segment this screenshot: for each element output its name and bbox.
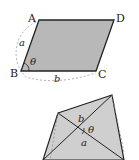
parallelogram-figure: A D B C a θ b: [10, 12, 125, 84]
quadrilateral-figure: b θ a: [43, 95, 124, 160]
diagonal-b-label: b: [78, 113, 84, 124]
angle-theta-label: θ: [30, 56, 36, 67]
side-a-label: a: [19, 37, 25, 48]
vertex-b-label: B: [10, 67, 18, 80]
vertex-c-label: C: [98, 68, 106, 81]
angle-theta-label-2: θ: [88, 124, 94, 135]
quadrilateral-shape: [43, 95, 124, 160]
vertex-d-label: D: [116, 12, 125, 25]
diagonal-a-label: a: [81, 137, 87, 148]
vertex-a-label: A: [27, 12, 37, 25]
diagram-canvas: A D B C a θ b b θ a: [0, 0, 139, 160]
side-b-label: b: [54, 73, 60, 84]
